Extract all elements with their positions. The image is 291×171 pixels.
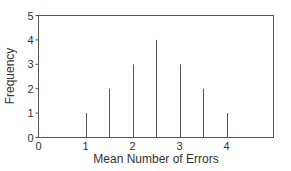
x-tick-label: 0 bbox=[35, 140, 41, 152]
x-tick-label: 1 bbox=[82, 140, 88, 152]
y-tick-label: 3 bbox=[27, 58, 33, 70]
y-axis-ticks: 012345 bbox=[27, 10, 38, 144]
y-tick-label: 0 bbox=[27, 132, 33, 144]
y-tick-label: 4 bbox=[27, 34, 33, 46]
x-tick-label: 2 bbox=[129, 140, 135, 152]
bars bbox=[87, 40, 228, 138]
y-tick-label: 5 bbox=[27, 10, 33, 22]
frequency-chart: 012345 01234 Mean Number of Errors Frequ… bbox=[0, 0, 291, 171]
y-tick-label: 1 bbox=[27, 107, 33, 119]
x-axis-ticks: 01234 bbox=[35, 140, 229, 152]
x-tick-label: 4 bbox=[223, 140, 229, 152]
y-axis-label: Frequency bbox=[3, 48, 17, 105]
y-tick-label: 2 bbox=[27, 83, 33, 95]
x-axis-label: Mean Number of Errors bbox=[93, 152, 218, 166]
x-tick-label: 3 bbox=[176, 140, 182, 152]
